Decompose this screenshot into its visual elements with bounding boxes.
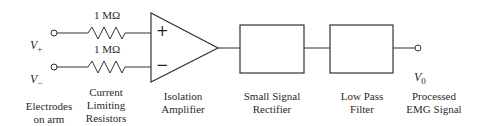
caption-output: Processed EMG Signal [399,90,469,116]
negative-input-label: V− [30,60,42,90]
positive-resistor [88,27,125,39]
amp-minus-sign: − [156,56,169,74]
output-subscript: 0 [421,76,426,86]
negative-input-subscript: − [37,78,42,88]
negative-input-terminal [51,64,57,70]
positive-input-terminal [51,30,57,36]
negative-resistor-value: 1 MΩ [94,43,120,55]
output-terminal [415,45,421,51]
negative-resistor [88,61,125,73]
output-label: V0 [414,58,426,88]
positive-input-label: V+ [30,26,42,56]
caption-rectifier: Small Signal Rectifier [236,90,308,116]
caption-amplifier: Isolation Amplifier [152,90,214,116]
rectifier-block [240,25,304,73]
positive-input-subscript: + [37,44,42,54]
positive-resistor-value: 1 MΩ [94,9,120,21]
caption-resistors: Current Limiting Resistors [78,86,134,125]
caption-electrodes: Electrodes on arm [14,100,84,126]
amp-plus-sign: + [156,22,169,40]
low-pass-filter-block [330,25,393,73]
caption-filter: Low Pass Filter [330,90,394,116]
